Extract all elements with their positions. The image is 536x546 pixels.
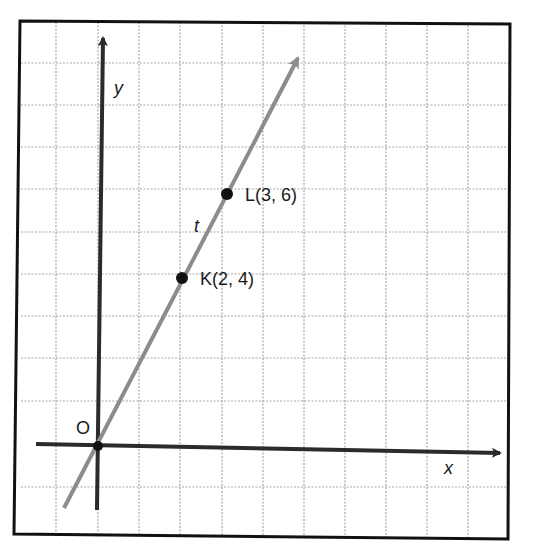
x-axis-label: x (443, 458, 454, 478)
point-l (221, 188, 233, 200)
coordinate-plane-figure: y x O t K(2, 4) L(3, 6) (0, 0, 536, 546)
origin-label: O (76, 418, 90, 438)
origin-point (93, 441, 103, 451)
point-k-label: K(2, 4) (200, 269, 254, 289)
point-k (176, 272, 188, 284)
y-axis-label: y (112, 78, 124, 98)
line-t-label: t (194, 216, 200, 236)
point-l-label: L(3, 6) (245, 185, 297, 205)
x-axis (36, 444, 500, 453)
grid (21, 22, 509, 537)
